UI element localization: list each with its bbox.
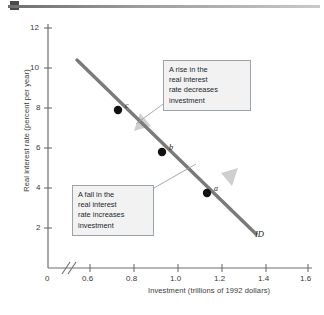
x-tick-label-1-4: 1.4 [258, 274, 269, 283]
x-tick-label-1-0: 1.0 [170, 274, 181, 283]
annotation-rise-line-3: rate decreases [169, 85, 245, 95]
x-tick-label-0-6: 0.6 [82, 274, 93, 283]
y-tick-label-6: 6 [36, 143, 40, 152]
annotation-fall-line-2: real interest [78, 200, 148, 210]
annotation-rise-line-1: A rise in the [169, 65, 245, 75]
annotation-fall-line-3: rate increases [78, 210, 148, 220]
data-point-b [158, 148, 166, 156]
annotation-rise-line-2: real interest [169, 75, 245, 85]
data-point-a [203, 189, 211, 197]
annotation-rise-line-4: investment [169, 96, 245, 106]
x-tick-label-0-8: 0.8 [126, 274, 137, 283]
y-axis-title: Real interest rate (percent per year) [22, 61, 31, 201]
y-tick-label-10: 10 [30, 63, 39, 72]
x-tick-label-0: 0 [45, 274, 49, 283]
curve-label-id: ID [255, 229, 264, 239]
annotation-fall-line-4: investment [78, 221, 148, 231]
data-point-label-b: b [169, 143, 173, 152]
data-point-label-a: a [214, 184, 218, 193]
data-point-c [114, 106, 122, 114]
y-tick-label-12: 12 [30, 23, 39, 32]
x-tick-label-1-6: 1.6 [300, 274, 311, 283]
x-tick-label-1-2: 1.2 [214, 274, 225, 283]
chart-svg [0, 0, 324, 315]
x-axis-title: Investment (trillions of 1992 dollars) [148, 286, 270, 295]
y-tick-label-2: 2 [36, 223, 40, 232]
y-tick-label-8: 8 [36, 103, 40, 112]
chart-plot-area: 12 10 8 6 4 2 0 0.6 0.8 1.0 1.2 1.4 1.6 … [0, 0, 324, 315]
figure-container: 12 10 8 6 4 2 0 0.6 0.8 1.0 1.2 1.4 1.6 … [0, 0, 324, 315]
direction-arrows [134, 113, 238, 186]
annotation-rise-note: A rise in the real interest rate decreas… [163, 60, 251, 111]
annotation-fall-note: A fall in the real interest rate increas… [72, 185, 154, 236]
y-tick-label-4: 4 [36, 183, 40, 192]
data-point-label-c: c [125, 101, 129, 110]
annotation-fall-line-1: A fall in the [78, 190, 148, 200]
